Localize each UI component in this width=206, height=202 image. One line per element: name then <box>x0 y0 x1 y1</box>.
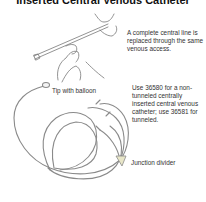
cpt-code-note: Use 36580 for a non-tunneled centrally i… <box>132 84 206 124</box>
replacement-note: A complete central line is replaced thro… <box>127 29 205 53</box>
hands-replacing-line-icon <box>34 14 117 82</box>
tip-label: Tip with balloon <box>52 87 96 94</box>
junction-label: Junction divider <box>131 159 175 166</box>
catheter-coil-icon <box>14 83 128 179</box>
